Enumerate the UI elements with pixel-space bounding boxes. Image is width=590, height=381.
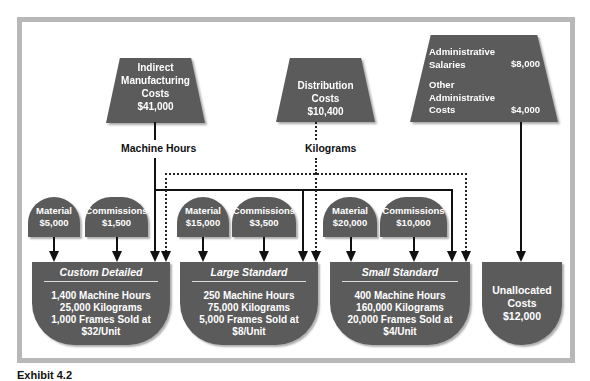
kilograms-driver-label: Kilograms	[305, 142, 356, 154]
product-details: 1,400 Machine Hours 25,000 Kilograms 1,0…	[32, 290, 170, 338]
unallocated-value: $12,000	[482, 310, 562, 323]
detail-line: 25,000 Kilograms	[32, 302, 170, 314]
label-line: Administrative	[429, 46, 495, 59]
direct-cost-connector	[263, 237, 265, 252]
arrow-down-icon	[346, 251, 356, 262]
direct-cost-connector	[116, 237, 118, 252]
unallocated-line: Costs	[482, 297, 562, 310]
commissions-cost-large: Commissions $3,500	[232, 197, 296, 237]
administrative-costs-pool: Administrative Salaries $8,000 Other Adm…	[410, 35, 558, 122]
pool-line: Distribution	[276, 79, 375, 92]
product-title: Large Standard	[180, 262, 318, 278]
detail-line: $32/Unit	[32, 326, 170, 338]
detail-line: 5,000 Frames Sold at	[180, 314, 318, 326]
arrow-down-icon	[311, 251, 321, 262]
dome-label: Material	[177, 205, 229, 217]
unallocated-costs: Unallocated Costs $12,000	[482, 262, 562, 345]
detail-line: $4/Unit	[330, 326, 470, 338]
label-line: Other	[429, 79, 495, 92]
machine-hours-connector	[302, 189, 304, 252]
arrow-down-icon	[461, 251, 471, 262]
direct-cost-connector	[53, 237, 55, 252]
product-title: Small Standard	[330, 262, 470, 278]
commissions-cost-small: Commissions $10,000	[380, 197, 447, 237]
dome-label: Commissions	[232, 205, 296, 217]
admin-connector	[520, 122, 522, 252]
product-large-standard: Large Standard 250 Machine Hours 75,000 …	[180, 262, 318, 345]
admin-salaries-label: Administrative Salaries	[429, 46, 495, 71]
unallocated-line: Unallocated	[482, 284, 562, 297]
dome-label: Commissions	[85, 205, 148, 217]
arrow-down-icon	[447, 251, 457, 262]
detail-line: 1,000 Frames Sold at	[32, 314, 170, 326]
dome-value: $20,000	[323, 217, 377, 229]
product-title: Custom Detailed	[32, 262, 170, 278]
arrow-down-icon	[409, 251, 419, 262]
kilograms-connector	[315, 158, 317, 174]
product-details: 400 Machine Hours 160,000 Kilograms 20,0…	[330, 290, 470, 338]
title-divider	[192, 281, 306, 282]
arrow-down-icon	[49, 251, 59, 262]
arrow-down-icon	[198, 251, 208, 262]
kilograms-connector	[315, 122, 317, 140]
dome-label: Material	[323, 205, 377, 217]
pool-value: $41,000	[106, 100, 205, 113]
kilograms-connector	[315, 173, 317, 252]
detail-line: 160,000 Kilograms	[330, 302, 470, 314]
detail-line: 400 Machine Hours	[330, 290, 470, 302]
indirect-manufacturing-costs-pool: Indirect Manufacturing Costs $41,000	[106, 58, 205, 123]
machine-hours-connector	[154, 122, 156, 140]
label-line: Administrative	[429, 92, 495, 105]
title-divider	[342, 281, 458, 282]
dome-label: Material	[28, 205, 80, 217]
label-line: Salaries	[429, 59, 495, 72]
arrow-down-icon	[516, 251, 526, 262]
kilograms-connector	[165, 173, 167, 252]
arrow-down-icon	[259, 251, 269, 262]
kilograms-connector	[465, 173, 467, 252]
pool-value: $10,400	[276, 105, 375, 118]
product-details: 250 Machine Hours 75,000 Kilograms 5,000…	[180, 290, 318, 338]
label-line: Costs	[429, 104, 495, 117]
machine-hours-driver-label: Machine Hours	[121, 142, 196, 154]
arrow-down-icon	[161, 251, 171, 262]
admin-salaries-value: $8,000	[511, 58, 540, 71]
dome-value: $5,000	[28, 217, 80, 229]
product-custom-detailed: Custom Detailed 1,400 Machine Hours 25,0…	[32, 262, 170, 345]
direct-cost-connector	[350, 237, 352, 252]
pool-line: Manufacturing	[106, 74, 205, 87]
arrow-down-icon	[298, 251, 308, 262]
dome-value: $15,000	[177, 217, 229, 229]
arrow-down-icon	[112, 251, 122, 262]
direct-cost-connector	[413, 237, 415, 252]
pool-line: Costs	[276, 92, 375, 105]
distribution-costs-pool: Distribution Costs $10,400	[276, 58, 375, 122]
dome-value: $10,000	[380, 217, 447, 229]
dome-value: $1,500	[85, 217, 148, 229]
detail-line: 1,400 Machine Hours	[32, 290, 170, 302]
direct-cost-connector	[202, 237, 204, 252]
dome-label: Commissions	[380, 205, 447, 217]
other-admin-label: Other Administrative Costs	[429, 79, 495, 117]
dome-value: $3,500	[232, 217, 296, 229]
machine-hours-connector	[451, 189, 453, 252]
detail-line: 75,000 Kilograms	[180, 302, 318, 314]
arrow-down-icon	[150, 251, 160, 262]
detail-line: $8/Unit	[180, 326, 318, 338]
product-small-standard: Small Standard 400 Machine Hours 160,000…	[330, 262, 470, 345]
other-admin-value: $4,000	[511, 104, 540, 117]
pool-line: Costs	[106, 87, 205, 100]
pool-line: Indirect	[106, 61, 205, 74]
exhibit-caption: Exhibit 4.2	[17, 369, 72, 381]
commissions-cost-custom: Commissions $1,500	[85, 197, 148, 237]
detail-line: 250 Machine Hours	[180, 290, 318, 302]
title-divider	[44, 281, 158, 282]
detail-line: 20,000 Frames Sold at	[330, 314, 470, 326]
machine-hours-connector	[154, 158, 156, 252]
